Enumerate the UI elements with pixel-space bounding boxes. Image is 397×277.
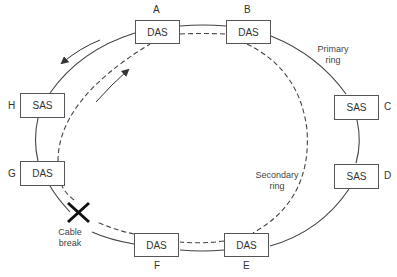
- node-b-das: DAS: [226, 20, 271, 44]
- node-label-b: B: [244, 4, 251, 15]
- node-c-sas: SAS: [334, 95, 379, 120]
- node-h-sas: SAS: [20, 93, 65, 118]
- node-label-a: A: [153, 4, 160, 15]
- node-e-das: DAS: [224, 233, 269, 257]
- primary-ring-label: Primary ring: [313, 44, 353, 66]
- node-f-das: DAS: [134, 233, 179, 257]
- node-label-f: F: [154, 260, 160, 271]
- node-d-sas: SAS: [334, 164, 379, 189]
- node-a-das: DAS: [135, 20, 180, 44]
- secondary-ring: [58, 34, 307, 243]
- secondary-flow-arrow: [96, 70, 128, 102]
- node-label-g: G: [8, 168, 16, 179]
- node-label-h: H: [8, 100, 15, 111]
- node-label-e: E: [243, 260, 250, 271]
- cable-break-label: Cable break: [52, 227, 88, 249]
- cable-break-icon: [68, 203, 89, 222]
- node-g-das: DAS: [20, 161, 65, 186]
- node-label-c: C: [384, 101, 391, 112]
- secondary-ring-label: Secondary ring: [252, 170, 302, 192]
- node-label-d: D: [384, 170, 391, 181]
